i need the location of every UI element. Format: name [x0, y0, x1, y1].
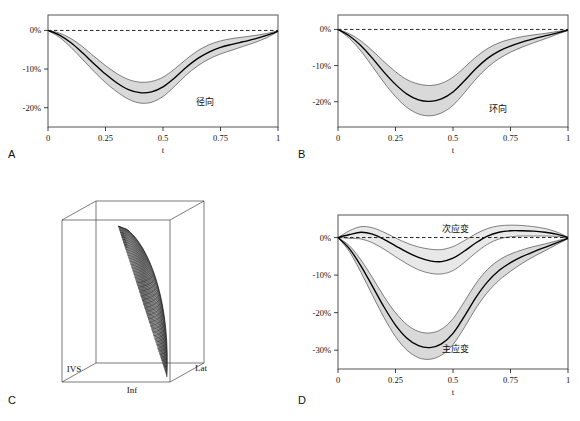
plot-frame [48, 15, 278, 127]
box-edge-depth-2 [170, 201, 204, 220]
panel-c: IVSInfLat C [0, 170, 290, 421]
x-axis-title: t [162, 145, 165, 155]
panel-a-letter: A [8, 148, 15, 160]
panel-d-chart: 0%-10%-20%-30%00.250.50.751t次应变主应变 [290, 170, 580, 421]
panel-a-chart: 0%-10%-20%00.250.50.751t径向 [0, 0, 290, 170]
x-tick-label: 1 [566, 133, 570, 143]
x-tick-label: 1 [276, 133, 280, 143]
y-tick-label: 0% [320, 233, 331, 243]
y-tick-label: 0% [320, 24, 331, 34]
x-tick-label: 0.5 [448, 133, 459, 143]
label-lat: Lat [195, 363, 207, 373]
y-tick-label: -20% [23, 103, 41, 113]
x-tick-label: 0.25 [388, 375, 403, 385]
x-tick-label: 0.25 [388, 133, 403, 143]
panel-b-chart: 0%-10%-20%00.250.50.751t环向 [290, 0, 580, 170]
panel-a: 0%-10%-20%00.250.50.751t径向 A [0, 0, 290, 170]
y-tick-label: -10% [313, 61, 331, 71]
panel-d-secondary-label: 次应变 [442, 223, 469, 234]
x-tick-label: 1 [566, 375, 570, 385]
label-ivs: IVS [67, 364, 82, 374]
label-inf: Inf [127, 385, 138, 395]
x-tick-label: 0 [336, 133, 340, 143]
x-tick-label: 0.5 [448, 375, 459, 385]
x-tick-label: 0 [46, 133, 50, 143]
panel-b: 0%-10%-20%00.250.50.751t环向 B [290, 0, 580, 170]
y-tick-label: 0% [30, 25, 41, 35]
ventricle-scene: IVSInfLat [62, 201, 207, 395]
x-axis-title: t [452, 387, 455, 397]
x-tick-label: 0.25 [98, 133, 113, 143]
panel-d: 0%-10%-20%-30%00.250.50.751t次应变主应变 D [290, 170, 580, 421]
panel-a-series-label: 径向 [196, 96, 214, 107]
y-tick-label: -10% [23, 64, 41, 74]
box-edge-depth-3 [62, 201, 96, 220]
panel-b-series-label: 环向 [489, 103, 507, 114]
x-tick-label: 0.75 [503, 133, 518, 143]
x-axis-title: t [452, 145, 455, 155]
x-tick-label: 0.75 [213, 133, 228, 143]
y-tick-label: -30% [313, 345, 331, 355]
panel-c-letter: C [8, 394, 16, 406]
plot-frame [338, 15, 568, 127]
panel-b-letter: B [298, 148, 305, 160]
y-tick-label: -20% [313, 308, 331, 318]
x-tick-label: 0 [336, 375, 340, 385]
y-tick-label: -10% [313, 270, 331, 280]
x-tick-label: 0.75 [503, 375, 518, 385]
panel-d-letter: D [298, 394, 306, 406]
y-tick-label: -20% [313, 97, 331, 107]
x-tick-label: 0.5 [158, 133, 169, 143]
panel-c-ventricle-3d: IVSInfLat [0, 170, 290, 421]
panel-d-principal-label: 主应变 [442, 343, 469, 354]
